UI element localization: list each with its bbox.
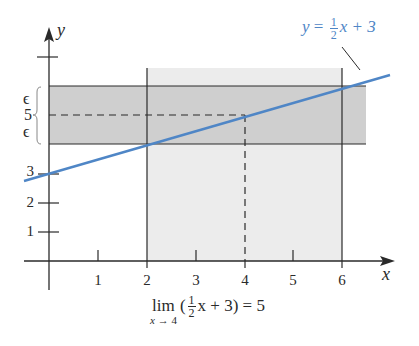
limit-operator: lim x → 4 xyxy=(150,297,177,326)
epsilon-lower-label: ϵ xyxy=(23,123,29,141)
y-tick-label: 3 xyxy=(20,163,34,180)
equation-equals: = xyxy=(310,17,328,36)
x-tick-label: 5 xyxy=(289,272,297,289)
equation-rhs: x + 3 xyxy=(340,17,376,36)
x-tick-label: 1 xyxy=(94,272,102,289)
x-tick-label: 3 xyxy=(192,272,200,289)
caption-open-paren: ( xyxy=(180,297,186,315)
y-axis-label: y xyxy=(57,20,65,41)
x-tick-label: 2 xyxy=(143,272,151,289)
function-equation-label: y = 12x + 3 xyxy=(302,16,376,41)
y-tick-label: 2 xyxy=(20,194,34,211)
center-value-label: 5 xyxy=(24,106,32,124)
x-tick-label: 4 xyxy=(241,272,249,289)
equation-lhs: y xyxy=(302,17,310,36)
caption-body: x + 3) = 5 xyxy=(198,297,265,315)
epsilon-brace-icon xyxy=(33,87,41,144)
limit-caption: lim x → 4 ( 12 x + 3) = 5 xyxy=(150,297,265,326)
x-axis-label: x xyxy=(382,264,390,285)
caption-fraction: 12 xyxy=(188,294,196,319)
equation-leader xyxy=(342,47,360,70)
diagram-canvas xyxy=(0,0,419,346)
x-tick-label: 6 xyxy=(338,272,346,289)
y-tick-label: 1 xyxy=(20,223,34,240)
equation-fraction: 12 xyxy=(330,16,338,41)
